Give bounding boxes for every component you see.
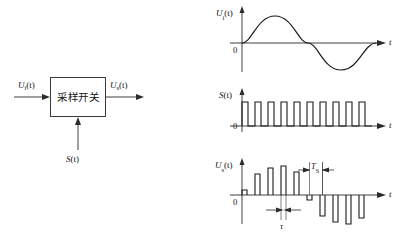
block-diagram-lines <box>0 0 200 243</box>
y-axis-arrowhead <box>240 158 245 165</box>
sampling-switch-box: 采样开关 <box>50 77 106 117</box>
sampled-pulses-negative <box>307 195 364 224</box>
tau-label: τ <box>280 222 283 231</box>
output-y-axis-label: Us(t) <box>215 161 233 172</box>
output-arrowhead <box>136 94 144 100</box>
sampling-origin-label: 0 <box>233 122 237 131</box>
pulse-train-curve <box>242 102 372 126</box>
control-arrowhead <box>75 117 81 125</box>
x-axis-arrowhead <box>377 40 386 46</box>
block-diagram: 采样开关 Ui(t) Us(t) S(t) <box>0 0 200 243</box>
input-x-axis-label: t <box>389 38 392 47</box>
x-axis-arrowhead <box>377 192 386 198</box>
sampling-x-axis-label: t <box>389 121 392 130</box>
y-axis-arrowhead <box>240 6 245 13</box>
waveform-panel-sampling: S(t) 0 t <box>200 80 400 150</box>
waveform-group: Ui(t) 0 t S(t) 0 t <box>200 0 400 243</box>
input-y-axis-label: Ui(t) <box>216 9 233 20</box>
output-x-axis-label: t <box>389 190 392 199</box>
x-axis-arrowhead <box>377 123 386 129</box>
output-signal-label: Us(t) <box>110 81 128 90</box>
input-signal-label: Ui(t) <box>18 81 35 90</box>
figure-root: 采样开关 Ui(t) Us(t) S(t) <box>0 0 400 243</box>
y-axis-arrowhead <box>240 88 245 95</box>
ts-label: TS <box>311 162 319 173</box>
waveform-panel-output: Us(t) 0 t τ TS <box>200 148 400 243</box>
input-arrowhead <box>42 94 50 100</box>
waveform-panel-input: Ui(t) 0 t <box>200 0 400 82</box>
output-origin-label: 0 <box>233 198 237 207</box>
tau-measure <box>266 195 301 220</box>
control-signal-label: S(t) <box>66 155 79 164</box>
sampled-pulses-positive <box>242 166 299 195</box>
sampling-y-axis-label: S(t) <box>219 91 232 102</box>
sampling-switch-label: 采样开关 <box>57 92 99 103</box>
input-origin-label: 0 <box>233 46 237 55</box>
